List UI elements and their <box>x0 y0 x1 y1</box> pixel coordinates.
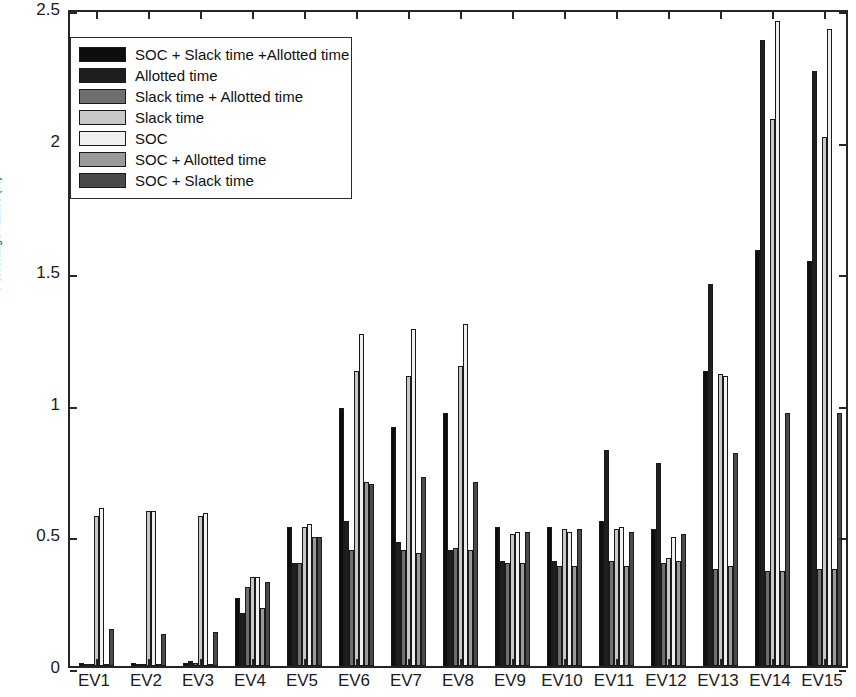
y-tick-mark-right <box>839 12 846 14</box>
legend-item-label: SOC + Slack time <box>135 173 254 188</box>
legend: SOC + Slack time +Allotted timeAllotted … <box>70 37 352 199</box>
x-tick-label-ev12: EV12 <box>645 671 687 691</box>
bar-group-ev14 <box>755 12 790 666</box>
x-tick-mark-top <box>824 12 826 19</box>
x-tick-mark-top <box>356 12 358 19</box>
x-tick-label-ev14: EV14 <box>749 671 791 691</box>
x-tick-mark-top <box>564 12 566 19</box>
x-tick-label-ev4: EV4 <box>234 671 266 691</box>
y-tick-mark-right <box>839 275 846 277</box>
x-tick-mark <box>668 659 670 666</box>
x-tick-mark <box>96 659 98 666</box>
x-tick-label-ev13: EV13 <box>697 671 739 691</box>
bar <box>265 582 270 666</box>
x-tick-label-ev15: EV15 <box>801 671 843 691</box>
y-axis-title: Percentage Failure (%) <box>0 177 2 290</box>
x-tick-label-ev11: EV11 <box>594 671 634 691</box>
y-tick-label: 1.5 <box>36 263 60 283</box>
bar <box>681 534 686 666</box>
x-tick-label-ev9: EV9 <box>494 671 526 691</box>
x-tick-mark-top <box>252 12 254 19</box>
bar-group-ev13 <box>703 12 738 666</box>
y-tick-mark <box>70 407 77 409</box>
legend-item[interactable]: Slack time + Allotted time <box>79 86 343 107</box>
bar <box>473 482 478 666</box>
bar <box>99 508 104 666</box>
legend-swatch-icon <box>79 47 126 62</box>
x-tick-mark-top <box>460 12 462 19</box>
x-tick-mark-top <box>668 12 670 19</box>
bar <box>785 413 790 666</box>
legend-item[interactable]: SOC + Slack time +Allotted time <box>79 44 343 65</box>
y-tick-mark <box>70 12 77 14</box>
y-tick-label: 2 <box>51 132 60 152</box>
x-tick-label-ev7: EV7 <box>390 671 422 691</box>
bar <box>151 511 156 666</box>
bar-group-ev7 <box>391 12 426 666</box>
x-tick-mark-top <box>720 12 722 19</box>
x-tick-mark <box>148 659 150 666</box>
legend-item-label: SOC + Allotted time <box>135 152 266 167</box>
y-tick-mark <box>70 275 77 277</box>
x-tick-label-ev6: EV6 <box>338 671 370 691</box>
x-tick-mark-top <box>96 12 98 19</box>
legend-swatch-icon <box>79 173 126 188</box>
bar <box>629 532 634 666</box>
bar <box>577 529 582 666</box>
legend-swatch-icon <box>79 131 126 146</box>
y-tick-mark <box>70 538 77 540</box>
x-tick-mark <box>460 659 462 666</box>
bar-group-ev10 <box>547 12 582 666</box>
x-tick-mark <box>772 659 774 666</box>
x-tick-label-ev1: EV1 <box>78 671 110 691</box>
legend-item[interactable]: Allotted time <box>79 65 343 86</box>
plot-area: SOC + Slack time +Allotted timeAllotted … <box>68 10 848 668</box>
x-tick-mark-top <box>616 12 618 19</box>
legend-item-label: Slack time <box>135 110 204 125</box>
x-tick-label-ev2: EV2 <box>130 671 162 691</box>
legend-item-label: SOC <box>135 131 168 146</box>
x-tick-mark <box>720 659 722 666</box>
bar-chart-figure: 00.511.522.5 Percentage Failure (%) SOC … <box>0 0 856 697</box>
x-tick-mark <box>408 659 410 666</box>
x-tick-mark <box>824 659 826 666</box>
legend-item[interactable]: SOC <box>79 128 343 149</box>
bar-group-ev11 <box>599 12 634 666</box>
bar <box>733 453 738 666</box>
x-tick-mark-top <box>200 12 202 19</box>
legend-item-label: Slack time + Allotted time <box>135 89 303 104</box>
legend-item-label: SOC + Slack time +Allotted time <box>135 47 349 62</box>
x-tick-label-ev8: EV8 <box>442 671 474 691</box>
legend-swatch-icon <box>79 68 126 83</box>
x-tick-mark <box>564 659 566 666</box>
bar <box>213 632 218 666</box>
y-tick-mark-right <box>839 407 846 409</box>
x-tick-label-ev5: EV5 <box>286 671 318 691</box>
y-axis-tick-labels: 00.511.522.5 <box>0 10 60 668</box>
legend-swatch-icon <box>79 152 126 167</box>
legend-swatch-icon <box>79 89 126 104</box>
x-tick-mark <box>252 659 254 666</box>
x-tick-mark-top <box>304 12 306 19</box>
bar <box>525 532 530 666</box>
legend-item-label: Allotted time <box>135 68 218 83</box>
bar <box>421 477 426 667</box>
legend-item[interactable]: SOC + Allotted time <box>79 149 343 170</box>
x-tick-mark-top <box>148 12 150 19</box>
bar-group-ev15 <box>807 12 842 666</box>
legend-item[interactable]: Slack time <box>79 107 343 128</box>
y-tick-label: 0 <box>51 658 60 678</box>
x-tick-mark-top <box>772 12 774 19</box>
legend-swatch-icon <box>79 110 126 125</box>
x-tick-label-ev10: EV10 <box>541 671 583 691</box>
x-tick-mark-top <box>512 12 514 19</box>
x-tick-mark <box>200 659 202 666</box>
x-tick-mark <box>356 659 358 666</box>
y-tick-label: 0.5 <box>36 526 60 546</box>
x-tick-label-ev3: EV3 <box>182 671 214 691</box>
y-tick-label: 2.5 <box>36 0 60 20</box>
y-tick-mark-right <box>839 144 846 146</box>
bar <box>203 513 208 666</box>
legend-item[interactable]: SOC + Slack time <box>79 170 343 191</box>
bar <box>317 537 322 666</box>
